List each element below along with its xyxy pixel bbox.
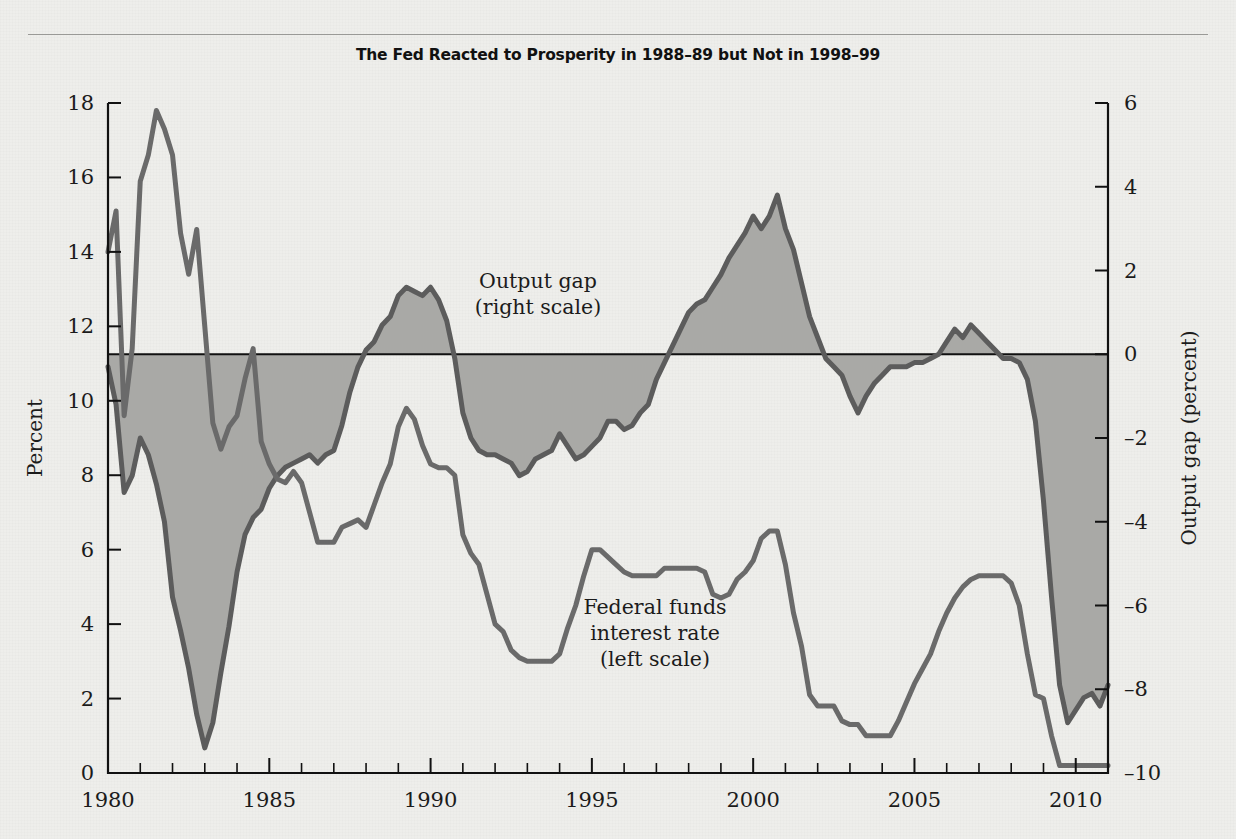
svg-text:2: 2 <box>1124 259 1137 283</box>
svg-text:–4: –4 <box>1124 510 1148 534</box>
left-axis-title: Percent <box>23 399 47 477</box>
svg-text:1985: 1985 <box>243 788 296 812</box>
figure-page: The Fed Reacted to Prosperity in 1988–89… <box>0 0 1236 839</box>
svg-text:Federal funds: Federal funds <box>583 595 726 619</box>
svg-text:Output gap: Output gap <box>479 269 597 293</box>
federal-funds-annotation: Federal fundsinterest rate(left scale) <box>583 595 726 671</box>
svg-text:1980: 1980 <box>81 788 134 812</box>
svg-text:–6: –6 <box>1124 594 1148 618</box>
svg-text:10: 10 <box>67 389 94 413</box>
svg-text:6: 6 <box>81 538 94 562</box>
chart-svg: 024681012141618–10–8–6–4–202461980198519… <box>0 0 1236 839</box>
svg-text:(right scale): (right scale) <box>475 295 601 319</box>
output-gap-annotation: Output gap(right scale) <box>475 269 601 319</box>
svg-text:4: 4 <box>1124 175 1137 199</box>
svg-text:–2: –2 <box>1124 426 1148 450</box>
svg-text:2: 2 <box>81 687 94 711</box>
svg-text:0: 0 <box>81 761 94 785</box>
svg-text:(left scale): (left scale) <box>600 647 710 671</box>
svg-text:–8: –8 <box>1124 677 1148 701</box>
right-axis-title: Output gap (percent) <box>1177 330 1201 545</box>
svg-text:0: 0 <box>1124 342 1137 366</box>
svg-text:14: 14 <box>67 240 94 264</box>
svg-text:1990: 1990 <box>404 788 457 812</box>
svg-text:18: 18 <box>67 91 94 115</box>
svg-text:2005: 2005 <box>888 788 941 812</box>
svg-text:2000: 2000 <box>726 788 779 812</box>
svg-text:–10: –10 <box>1124 761 1161 785</box>
svg-text:4: 4 <box>81 612 94 636</box>
svg-text:8: 8 <box>81 463 94 487</box>
chart-container: 024681012141618–10–8–6–4–202461980198519… <box>0 0 1236 839</box>
svg-text:interest rate: interest rate <box>590 621 720 645</box>
svg-text:6: 6 <box>1124 91 1137 115</box>
svg-text:1995: 1995 <box>565 788 618 812</box>
svg-text:12: 12 <box>67 314 94 338</box>
svg-text:16: 16 <box>67 165 94 189</box>
svg-text:2010: 2010 <box>1049 788 1102 812</box>
